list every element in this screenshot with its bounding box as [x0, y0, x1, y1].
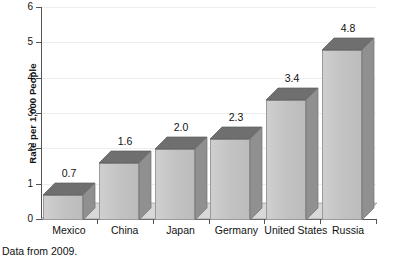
- y-tick: 0: [0, 214, 33, 224]
- bar-side-face: [306, 88, 318, 220]
- bar[interactable]: [155, 137, 195, 220]
- y-tick-label: 0: [7, 214, 33, 224]
- bar-3d-faces: [322, 38, 374, 220]
- bar-value-label: 2.0: [151, 122, 211, 133]
- chart-caption: Data from 2009.: [2, 245, 77, 257]
- y-tick: 1: [0, 179, 33, 189]
- bar-3d-faces: [266, 88, 318, 220]
- bar[interactable]: [266, 88, 306, 220]
- bar-value-label: 2.3: [206, 112, 266, 123]
- bar-value-label: 0.7: [39, 168, 99, 179]
- category-label: China: [97, 224, 153, 237]
- bar-side-face: [195, 137, 207, 220]
- bar-3d-faces: [155, 137, 207, 220]
- bar-value-label: 1.6: [95, 136, 155, 147]
- x-axis-category-labels: MexicoChinaJapanGermanyUnited StatesRuss…: [41, 224, 377, 240]
- category-label: United States: [264, 224, 320, 237]
- y-tick: 4: [0, 73, 33, 83]
- y-tick-label: 6: [7, 2, 33, 12]
- bar-side-face: [139, 151, 151, 220]
- category-label: Russia: [320, 224, 376, 237]
- bar-side-face: [250, 127, 262, 220]
- y-tick: 6: [0, 2, 33, 12]
- y-tick-label: 5: [7, 37, 33, 47]
- y-tick-label: 3: [7, 108, 33, 118]
- y-tick: 3: [0, 108, 33, 118]
- bar[interactable]: [99, 151, 139, 220]
- bar-value-label: 3.4: [262, 73, 322, 84]
- bar-3d-faces: [99, 151, 151, 220]
- bar-value-label: 4.8: [318, 23, 378, 34]
- bar-3d-faces: [210, 127, 262, 220]
- bar[interactable]: [43, 183, 83, 220]
- bar-chart: Rate per 1,000 People 0123456 MexicoChin…: [0, 0, 393, 265]
- category-label: Mexico: [41, 224, 97, 237]
- y-tick: 5: [0, 37, 33, 47]
- y-tick-label: 4: [7, 73, 33, 83]
- bar[interactable]: [322, 38, 362, 220]
- category-label: Germany: [209, 224, 265, 237]
- y-tick-label: 1: [7, 179, 33, 189]
- category-label: Japan: [153, 224, 209, 237]
- bar-side-face: [362, 38, 374, 220]
- bar[interactable]: [210, 127, 250, 220]
- bar-3d-faces: [43, 183, 95, 220]
- y-tick-label: 2: [7, 143, 33, 153]
- y-tick: 2: [0, 143, 33, 153]
